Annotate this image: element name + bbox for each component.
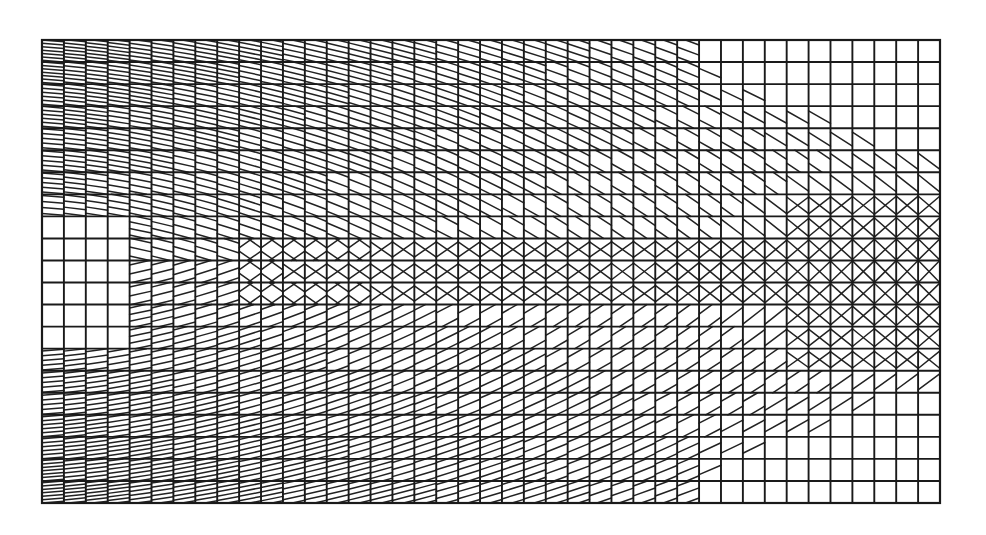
hatch-line (436, 470, 458, 477)
hatch-line (480, 66, 502, 73)
hatch-line (261, 360, 283, 367)
hatch-line (239, 283, 252, 292)
hatch-line (283, 120, 305, 126)
hatch-line (195, 246, 217, 253)
hatch-line (86, 375, 108, 378)
hatch-line (787, 163, 801, 172)
hatch-line (152, 407, 174, 411)
hatch-line (130, 47, 152, 50)
hatch-line (524, 399, 546, 409)
hatch-line (195, 423, 217, 428)
hatch-line (335, 251, 348, 260)
hatch-line (217, 87, 239, 92)
hatch-line (618, 150, 633, 159)
hatch-line (730, 339, 743, 348)
hatch-line (64, 453, 86, 455)
hatch-line (349, 117, 371, 124)
hatch-line (64, 484, 86, 486)
hatch-line (743, 142, 758, 151)
hatch-line (458, 88, 480, 96)
hatch-line (661, 429, 678, 437)
hatch-line (502, 87, 524, 95)
hatch-line (305, 374, 327, 381)
hatch-line (108, 402, 130, 405)
hatch-line (217, 51, 239, 55)
hatch-line (327, 86, 349, 92)
hatch-line (327, 70, 349, 76)
hatch-line (817, 150, 831, 159)
hatch-line (436, 463, 458, 470)
hatch-line (217, 77, 239, 81)
hatch-line (173, 199, 195, 204)
hatch-line (699, 327, 712, 336)
hatch-line (684, 128, 699, 137)
hatch-line (217, 131, 239, 136)
hatch-line (130, 96, 152, 99)
hatch-line (502, 305, 517, 314)
hatch-line (239, 71, 261, 76)
hatch-line (130, 222, 152, 227)
hatch-line (751, 361, 765, 370)
hatch-line (108, 110, 130, 113)
hatch-line (480, 305, 495, 314)
hatch-line (721, 443, 743, 454)
hatch-line (546, 44, 568, 51)
hatch-line (86, 165, 108, 168)
hatch-line (173, 43, 195, 47)
hatch-line (546, 421, 568, 431)
hatch-line (195, 440, 217, 444)
hatch-line (86, 380, 108, 383)
hatch-line (152, 310, 174, 315)
hatch-line (64, 471, 86, 473)
hatch-line (546, 112, 568, 122)
hatch-line (371, 54, 393, 60)
hatch-line (685, 362, 699, 371)
hatch-line (639, 406, 655, 414)
hatch-line (305, 176, 327, 184)
hatch-line (699, 229, 712, 239)
hatch-line (152, 332, 174, 337)
hatch-line (458, 51, 480, 57)
hatch-line (261, 496, 283, 501)
hatch-line (217, 360, 239, 366)
hatch-line (686, 339, 700, 348)
hatch-line (414, 54, 436, 60)
hatch-line (305, 70, 327, 75)
hatch-line (130, 200, 152, 204)
hatch-line (765, 111, 787, 123)
hatch-line (239, 42, 261, 46)
hatch-line (108, 96, 130, 99)
hatch-line (261, 224, 283, 232)
hatch-line (611, 349, 626, 358)
hatch-line (553, 318, 567, 327)
hatch-line (152, 43, 174, 46)
hatch-line (261, 133, 283, 139)
hatch-line (743, 111, 765, 123)
hatch-line (239, 331, 261, 338)
hatch-line (108, 121, 130, 124)
hatch-line (436, 88, 458, 95)
hatch-line (130, 110, 152, 114)
hatch-line (852, 374, 874, 389)
hatch-line (86, 46, 108, 49)
hatch-line (596, 384, 612, 392)
hatch-line (458, 470, 480, 477)
hatch-line (502, 399, 524, 409)
hatch-line (195, 120, 217, 125)
hatch-line (546, 134, 568, 144)
hatch-line (392, 139, 414, 147)
hatch-line (458, 305, 474, 313)
hatch-line (458, 448, 480, 456)
hatch-line (217, 56, 239, 60)
hatch-line (261, 109, 283, 115)
hatch-line (568, 327, 583, 336)
hatch-line (327, 92, 349, 98)
hatch-line (305, 201, 327, 209)
hatch-line (699, 68, 721, 77)
hatch-line (436, 44, 458, 50)
hatch-line (239, 483, 261, 487)
hatch-line (152, 466, 174, 470)
hatch-line (765, 197, 787, 213)
hatch-line (480, 200, 502, 212)
hatch-line (327, 132, 349, 139)
